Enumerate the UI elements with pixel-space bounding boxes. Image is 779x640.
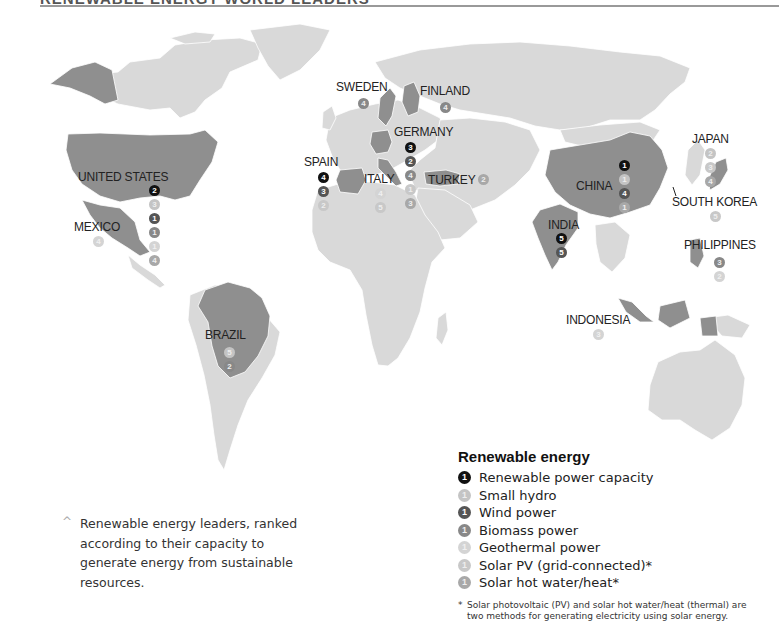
caption-text: Renewable energy leaders, ranked accordi… — [80, 516, 297, 590]
legend-badge-biomass: 1 — [458, 524, 471, 537]
badge-geothermal: 3 — [593, 329, 604, 340]
legend-badge-solar-pv: 1 — [458, 559, 471, 572]
badges-germany: 3 2 4 1 3 — [405, 140, 416, 210]
badge-solar-hot-water: 1 — [619, 202, 630, 213]
united-states-shape — [66, 130, 218, 202]
footnote-text: Solar photovoltaic (PV) and solar hot wa… — [467, 600, 746, 621]
badge-small-hydro: 2 — [705, 148, 716, 159]
badges-china: 1 1 4 1 — [619, 158, 630, 214]
label-spain: SPAIN — [304, 155, 338, 169]
legend-label: Geothermal power — [479, 540, 600, 555]
legend-footnote: * Solar photovoltaic (PV) and solar hot … — [458, 600, 758, 622]
legend-label: Biomass power — [479, 523, 578, 538]
legend-title: Renewable energy — [458, 448, 758, 465]
label-mexico: MEXICO — [74, 220, 120, 234]
label-turkey: TURKEY — [428, 173, 475, 187]
badges-india: 5 5 — [556, 231, 567, 259]
map-caption: ^ Renewable energy leaders, ranked accor… — [62, 514, 320, 592]
canada — [90, 38, 262, 118]
badge-wind: 2 — [405, 156, 416, 167]
legend-label: Renewable power capacity — [479, 470, 653, 485]
badge-geothermal: 4 — [93, 236, 104, 247]
badge-wind: 5 — [556, 247, 567, 258]
badge-solar-hot-water: 4 — [149, 255, 160, 266]
badge-biomass: 4 — [358, 98, 369, 109]
label-sweden: SWEDEN — [336, 80, 387, 94]
badge-solar-hot-water: 3 — [405, 198, 416, 209]
label-italy: ITALY — [364, 172, 395, 186]
badges-japan: 2 3 4 — [705, 146, 716, 188]
badges-turkey: 2 — [478, 172, 489, 186]
badge-geothermal: 1 — [149, 241, 160, 252]
badges-sweden: 4 — [358, 96, 369, 110]
legend-label: Wind power — [479, 505, 556, 520]
badge-solar-hot-water: 4 — [705, 176, 716, 187]
badges-spain: 4 3 2 — [318, 170, 329, 212]
india-shape — [532, 204, 578, 270]
badge-wind: 3 — [318, 186, 329, 197]
australia — [648, 340, 745, 440]
label-finland: FINLAND — [420, 84, 470, 98]
badge-capacity: 1 — [619, 160, 630, 171]
badge-solar-pv: 5 — [710, 211, 721, 222]
caret-up-icon: ^ — [62, 513, 72, 533]
label-united-states: UNITED STATES — [78, 170, 168, 184]
badge-capacity: 3 — [405, 142, 416, 153]
badge-solar-pv: 2 — [318, 200, 329, 211]
badge-wind: 1 — [149, 213, 160, 224]
greenland — [250, 24, 330, 80]
legend-badge-small-hydro: 1 — [458, 489, 471, 502]
legend-label: Small hydro — [479, 488, 556, 503]
badge-solar-pv: 1 — [405, 184, 416, 195]
label-south-korea: SOUTH KOREA — [672, 195, 757, 209]
legend-item-wind: 1 Wind power — [458, 504, 758, 522]
label-japan: JAPAN — [692, 132, 729, 146]
label-germany: GERMANY — [394, 125, 453, 139]
badge-biomass: 2 — [224, 361, 235, 372]
badge-small-hydro: 3 — [149, 199, 160, 210]
badges-mexico: 4 — [93, 234, 104, 248]
badges-finland: 4 — [440, 100, 451, 114]
badge-biomass: 3 — [714, 257, 725, 268]
badge-wind: 4 — [619, 188, 630, 199]
badge-geothermal: 4 — [375, 188, 386, 199]
badge-biomass: 1 — [149, 227, 160, 238]
badge-solar-hot-water: 2 — [478, 174, 489, 185]
badges-brazil: 5 2 — [224, 345, 235, 373]
legend-badge-solar-hot-water: 1 — [458, 576, 471, 589]
legend-badge-capacity: 1 — [458, 471, 471, 484]
badge-capacity: 5 — [556, 233, 567, 244]
legend-badge-wind: 1 — [458, 506, 471, 519]
badges-united-states: 2 3 1 1 1 4 — [149, 183, 160, 267]
legend-item-small-hydro: 1 Small hydro — [458, 487, 758, 505]
badge-small-hydro: 1 — [619, 174, 630, 185]
badges-indonesia: 3 — [593, 327, 604, 341]
badge-solar-pv: 3 — [705, 162, 716, 173]
badge-small-hydro: 5 — [224, 347, 235, 358]
label-china: CHINA — [576, 179, 612, 193]
legend-item-capacity: 1 Renewable power capacity — [458, 469, 758, 487]
label-philippines: PHILIPPINES — [684, 238, 756, 252]
badge-biomass: 4 — [440, 102, 451, 113]
badges-italy: 4 5 — [375, 186, 386, 214]
legend-label: Solar hot water/heat* — [479, 575, 619, 590]
badge-solar-pv: 5 — [375, 202, 386, 213]
badge-capacity: 4 — [318, 172, 329, 183]
legend-badge-geothermal: 1 — [458, 541, 471, 554]
label-india: INDIA — [548, 218, 579, 232]
legend-label: Solar PV (grid-connected)* — [479, 558, 652, 573]
footnote-star: * — [458, 600, 463, 611]
legend-item-solar-hot-water: 1 Solar hot water/heat* — [458, 574, 758, 592]
legend-item-biomass: 1 Biomass power — [458, 522, 758, 540]
legend: Renewable energy 1 Renewable power capac… — [458, 448, 758, 622]
badge-capacity: 2 — [149, 185, 160, 196]
badges-philippines: 3 2 — [714, 255, 725, 283]
badge-biomass: 4 — [405, 170, 416, 181]
legend-item-geothermal: 1 Geothermal power — [458, 539, 758, 557]
label-brazil: BRAZIL — [205, 328, 246, 342]
badge-geothermal: 2 — [714, 271, 725, 282]
legend-item-solar-pv: 1 Solar PV (grid-connected)* — [458, 557, 758, 575]
label-indonesia: INDONESIA — [566, 313, 630, 327]
badges-south-korea: 5 — [710, 209, 721, 223]
